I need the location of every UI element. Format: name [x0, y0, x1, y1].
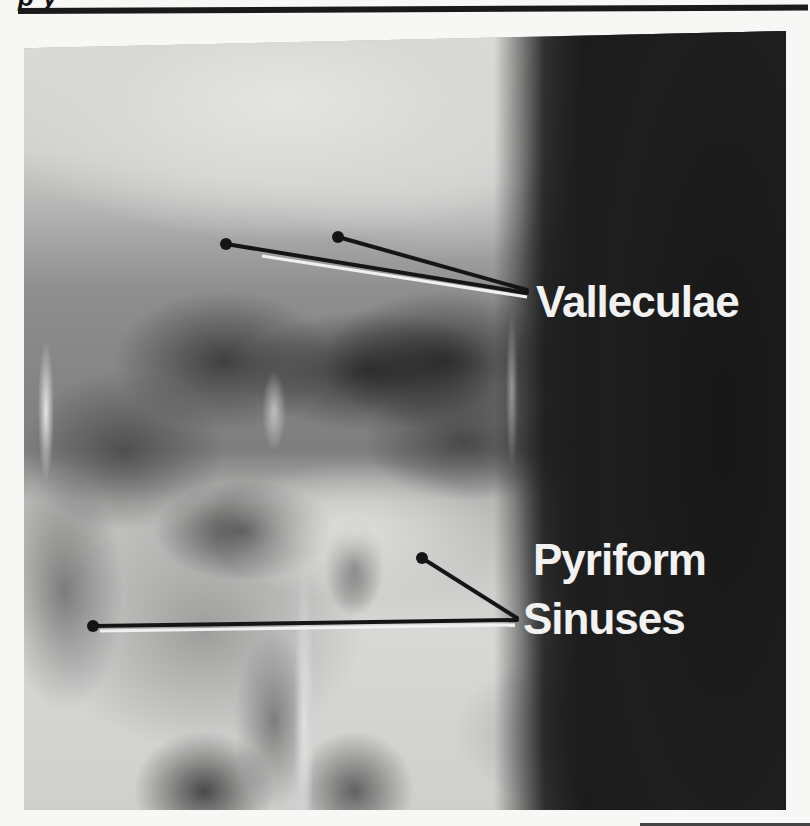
label-sinuses: Sinuses: [523, 597, 685, 641]
label-pyriform: Pyriform: [533, 538, 706, 582]
label-valleculae: Valleculae: [536, 280, 739, 324]
leader-highlights: [100, 256, 527, 631]
pyriform-leaders: [93, 558, 517, 626]
valleculae-leaders: [226, 237, 527, 293]
